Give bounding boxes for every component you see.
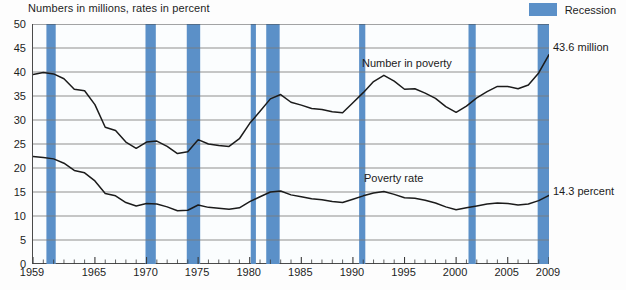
x-tick-label: 1995 xyxy=(391,266,415,278)
y-tick-label: 15 xyxy=(14,186,26,198)
y-tick-label: 10 xyxy=(14,210,26,222)
chart-title: Numbers in millions, rates in percent xyxy=(28,2,210,14)
x-tick-label: 2000 xyxy=(443,266,467,278)
x-tick-label: 2005 xyxy=(494,266,518,278)
plot-area xyxy=(32,24,548,264)
series-label-number-in-poverty: Number in poverty xyxy=(362,57,452,69)
end-label-poverty-rate: 14.3 percent xyxy=(553,185,614,197)
x-tick-label: 1985 xyxy=(288,266,312,278)
x-tick-label: 2009 xyxy=(536,266,560,278)
x-tick-label: 1970 xyxy=(133,266,157,278)
y-tick-label: 30 xyxy=(14,114,26,126)
poverty-chart-figure: Numbers in millions, rates in percent Re… xyxy=(0,0,626,290)
x-tick-label: 1959 xyxy=(20,266,44,278)
y-tick-label: 40 xyxy=(14,66,26,78)
y-tick-label: 20 xyxy=(14,162,26,174)
y-tick-label: 35 xyxy=(14,90,26,102)
x-tick-label: 1965 xyxy=(82,266,106,278)
y-axis-labels: 05101520253035404550 xyxy=(0,24,30,264)
legend: Recession xyxy=(529,3,616,16)
y-tick-label: 5 xyxy=(20,234,26,246)
series-label-poverty-rate: Poverty rate xyxy=(364,172,423,184)
x-axis-labels: 1959196519701975198019851990199520002005… xyxy=(32,266,548,286)
y-tick-label: 50 xyxy=(14,18,26,30)
legend-label-recession: Recession xyxy=(565,4,616,16)
y-tick-label: 25 xyxy=(14,138,26,150)
x-tick-label: 1975 xyxy=(185,266,209,278)
end-label-number-in-poverty: 43.6 million xyxy=(553,41,609,53)
plot-svg xyxy=(33,24,549,264)
x-tick-label: 1980 xyxy=(236,266,260,278)
y-tick-label: 45 xyxy=(14,42,26,54)
x-tick-label: 1990 xyxy=(340,266,364,278)
recession-swatch-icon xyxy=(529,3,557,16)
